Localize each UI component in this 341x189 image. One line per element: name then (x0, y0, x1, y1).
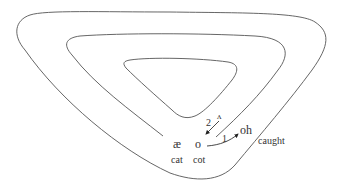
arrow-1-label: 1 (222, 133, 227, 144)
inner-loop (124, 58, 237, 117)
vowel-spiral-diagram: æ o oh ʌ cat cot caught 1 2 (0, 0, 341, 189)
word-caught: caught (258, 135, 285, 146)
vowel-wedge: ʌ (217, 111, 222, 121)
vowel-ae: æ (173, 137, 181, 151)
vowel-oh: oh (240, 123, 252, 137)
word-cat: cat (171, 154, 183, 165)
word-cot: cot (193, 154, 205, 165)
middle-loop (67, 34, 286, 137)
vowel-o: o (195, 137, 201, 151)
arrow-2-label: 2 (206, 117, 211, 128)
